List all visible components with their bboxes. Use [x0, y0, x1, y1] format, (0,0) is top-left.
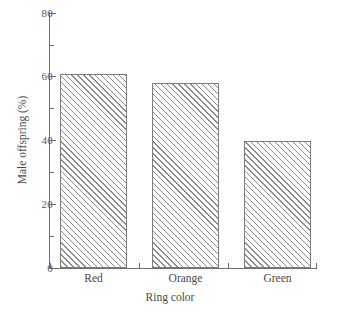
x-tick-label-red: Red	[60, 272, 127, 285]
y-axis-title: Male offspring (%)	[16, 55, 28, 225]
x-tick-divider-1	[139, 263, 140, 268]
x-tick-right-edge	[316, 263, 317, 268]
y-minor-tick-50	[50, 108, 54, 109]
bar-green	[244, 141, 311, 269]
y-tick-label-0: 0	[0, 263, 53, 274]
y-minor-tick-70	[50, 45, 54, 46]
y-minor-tick-30	[50, 172, 54, 173]
bar-red	[60, 74, 127, 268]
bar-chart-figure: 80 60 40 20 0 Red Orange Green Ring colo…	[0, 0, 340, 313]
x-axis-line	[49, 268, 317, 269]
x-tick-divider-2	[228, 263, 229, 268]
bar-orange	[152, 83, 219, 268]
y-tick-label-80: 80	[0, 8, 53, 19]
x-tick-label-orange: Orange	[152, 272, 219, 285]
x-axis-title: Ring color	[0, 291, 340, 303]
y-minor-tick-10	[50, 236, 54, 237]
x-tick-label-green: Green	[244, 272, 311, 285]
x-tick-left-edge	[50, 263, 51, 268]
